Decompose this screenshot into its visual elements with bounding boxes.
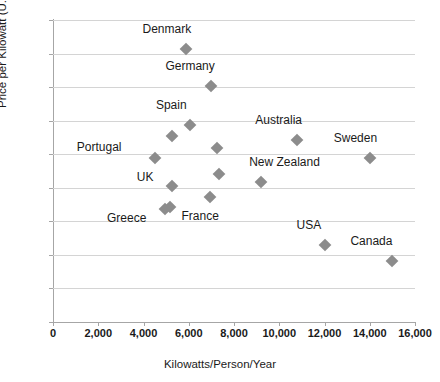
- gridline: [53, 288, 415, 289]
- data-point-label: Spain: [156, 98, 187, 112]
- plot-area: 051015202530354045DenmarkGermanySpainAus…: [53, 20, 415, 322]
- data-point-marker: [204, 191, 217, 204]
- data-point-label: New Zealand: [249, 155, 320, 169]
- x-axis-tick: [53, 322, 54, 326]
- x-axis-tick: [325, 322, 326, 326]
- data-point-label: Canada: [350, 234, 392, 248]
- data-point-marker: [213, 167, 226, 180]
- data-point-label: Australia: [255, 113, 302, 127]
- data-point-marker: [165, 179, 178, 192]
- x-axis-tick-label: 16,000: [385, 327, 440, 339]
- gridline: [53, 154, 415, 155]
- y-axis-tick: [49, 255, 53, 256]
- x-axis-tick: [234, 322, 235, 326]
- y-axis-tick: [49, 288, 53, 289]
- gridline: [53, 188, 415, 189]
- data-point-marker: [386, 255, 399, 268]
- gridline: [53, 20, 415, 21]
- data-point-label: UK: [137, 170, 154, 184]
- data-point-label: Portugal: [77, 140, 122, 154]
- data-point-marker: [318, 238, 331, 251]
- y-axis-tick: [49, 188, 53, 189]
- data-point-label: USA: [297, 218, 322, 232]
- y-axis-tick: [49, 20, 53, 21]
- y-axis-title: Price per Kilowatt (U.S. Dollars): [0, 0, 8, 108]
- data-point-marker: [165, 130, 178, 143]
- x-axis-tick: [279, 322, 280, 326]
- data-point-label: Sweden: [334, 131, 377, 145]
- gridline: [53, 54, 415, 55]
- data-point-marker: [205, 80, 218, 93]
- y-axis-tick: [49, 221, 53, 222]
- x-axis-tick: [144, 322, 145, 326]
- gridline: [53, 255, 415, 256]
- data-point-label: Denmark: [142, 22, 191, 36]
- data-point-label: France: [182, 209, 219, 223]
- x-axis-tick: [415, 322, 416, 326]
- data-point-label: Greece: [107, 211, 146, 225]
- data-point-marker: [211, 141, 224, 154]
- data-point-label: Germany: [165, 59, 214, 73]
- gridline: [53, 87, 415, 88]
- x-axis-tick: [98, 322, 99, 326]
- scatter-chart: Price per Kilowatt (U.S. Dollars) 051015…: [0, 0, 440, 382]
- data-point-marker: [291, 134, 304, 147]
- y-axis-tick: [49, 154, 53, 155]
- data-point-marker: [363, 151, 376, 164]
- x-axis-tick: [370, 322, 371, 326]
- y-axis-tick: [49, 121, 53, 122]
- y-axis-tick: [49, 54, 53, 55]
- y-axis-tick: [49, 87, 53, 88]
- data-point-marker: [148, 151, 161, 164]
- x-axis-title: Kilowatts/Person/Year: [0, 358, 440, 370]
- x-axis-tick: [189, 322, 190, 326]
- gridline: [53, 121, 415, 122]
